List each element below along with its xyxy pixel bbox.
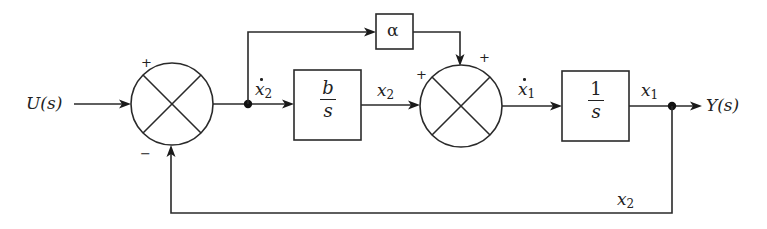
b-over-s-denominator: s: [316, 100, 340, 120]
one-over-s-numerator: 1: [584, 80, 608, 100]
x1-dot-label: x1: [518, 81, 535, 100]
sum1-plus-sign: +: [141, 56, 152, 69]
sum2-plus-top-sign: +: [479, 51, 490, 64]
sum2-plus-left-sign: +: [416, 68, 427, 81]
x2-dot-label: x2: [255, 81, 272, 100]
output-label: Y(s): [706, 97, 739, 114]
x2-label: x2: [377, 82, 394, 101]
feedback-x2-label: x2: [617, 191, 634, 210]
block-diagram: U(s) Y(s) + − + + α b s 1 s x2 x2 x1 x1 …: [0, 0, 767, 229]
x1-label: x1: [641, 82, 658, 101]
alpha-output-line: [413, 32, 460, 58]
b-over-s-numerator: b: [316, 79, 340, 99]
input-label: U(s): [26, 95, 62, 112]
one-over-s-fraction: 1 s: [584, 80, 608, 121]
summing-junction-2: [420, 65, 502, 147]
b-over-s-fraction: b s: [316, 79, 340, 120]
sum1-minus-sign: −: [140, 147, 151, 160]
summing-junction-1: [131, 63, 213, 145]
alpha-label: α: [387, 22, 398, 39]
one-over-s-denominator: s: [584, 101, 608, 121]
diagram-lines: [0, 0, 767, 229]
